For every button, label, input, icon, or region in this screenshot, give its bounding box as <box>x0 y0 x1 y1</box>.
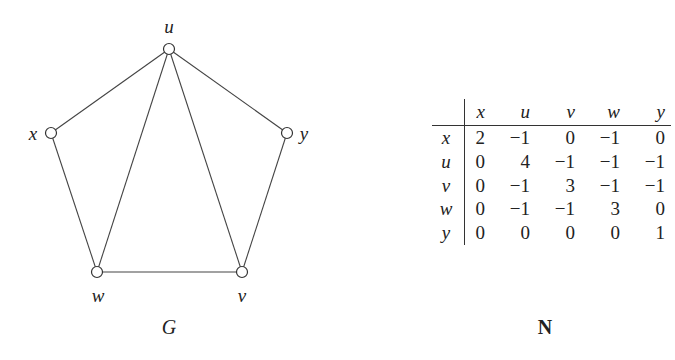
matrix-cell: 3 <box>581 197 626 221</box>
graph-node-x <box>46 128 57 139</box>
matrix-cell: −1 <box>626 150 671 174</box>
matrix-row: x2−10−10 <box>432 126 671 150</box>
matrix-cell: 0 <box>581 221 626 245</box>
matrix-row-header: u <box>432 150 465 174</box>
matrix-cell: 0 <box>626 197 671 221</box>
matrix-header-row: x u v w y <box>432 99 671 126</box>
matrix-cell: −1 <box>581 174 626 198</box>
matrix-cell: 0 <box>536 126 581 150</box>
graph-node-label-x: x <box>29 123 37 145</box>
graph-node-y <box>282 128 293 139</box>
matrix-col-header: w <box>581 99 626 126</box>
matrix-cell: 0 <box>465 150 492 174</box>
graph-node-label-v: v <box>238 285 246 307</box>
matrix-cell: −1 <box>581 150 626 174</box>
matrix-row: u04−1−1−1 <box>432 150 671 174</box>
matrix-caption: N <box>538 316 552 339</box>
matrix-n: x u v w y x2−10−10u04−1−1−1v0−13−1−1w0−1… <box>432 99 671 245</box>
matrix-row: w0−1−130 <box>432 197 671 221</box>
matrix-row: v0−13−1−1 <box>432 174 671 198</box>
matrix-cell: 3 <box>536 174 581 198</box>
matrix-cell: −1 <box>536 197 581 221</box>
matrix-cell: −1 <box>491 174 536 198</box>
matrix-col-header: y <box>626 99 671 126</box>
matrix-cell: 0 <box>465 174 492 198</box>
graph-edge-v-y <box>242 133 287 272</box>
graph-node-u <box>164 44 175 55</box>
matrix-cell: 0 <box>465 221 492 245</box>
matrix-cell: −1 <box>581 126 626 150</box>
graph-edge-u-x <box>51 49 169 133</box>
matrix-cell: −1 <box>536 150 581 174</box>
graph-caption: G <box>162 316 176 339</box>
matrix-row-header: x <box>432 126 465 150</box>
graph-node-w <box>92 267 103 278</box>
matrix-cell: 0 <box>536 221 581 245</box>
matrix-cell: 0 <box>626 126 671 150</box>
matrix-row: y00001 <box>432 221 671 245</box>
matrix-col-header: u <box>491 99 536 126</box>
graph-edge-u-w <box>97 49 169 272</box>
matrix-cell: 2 <box>465 126 492 150</box>
graph-edge-u-v <box>169 49 242 272</box>
matrix-cell: −1 <box>491 197 536 221</box>
matrix-cell: −1 <box>626 174 671 198</box>
graph-edge-x-w <box>51 133 97 272</box>
graph-edge-u-y <box>169 49 287 133</box>
graph-node-label-u: u <box>164 16 174 38</box>
matrix-corner <box>432 99 465 126</box>
graph-g <box>0 0 340 360</box>
matrix-cell: 1 <box>626 221 671 245</box>
matrix-cell: 0 <box>491 221 536 245</box>
matrix-col-header: v <box>536 99 581 126</box>
graph-node-v <box>237 267 248 278</box>
matrix-cell: −1 <box>491 126 536 150</box>
matrix-col-header: x <box>465 99 492 126</box>
matrix-cell: 4 <box>491 150 536 174</box>
matrix-row-header: v <box>432 174 465 198</box>
matrix-cell: 0 <box>465 197 492 221</box>
matrix-row-header: y <box>432 221 465 245</box>
graph-node-label-w: w <box>92 285 105 307</box>
graph-node-label-y: y <box>300 123 308 145</box>
matrix-row-header: w <box>432 197 465 221</box>
